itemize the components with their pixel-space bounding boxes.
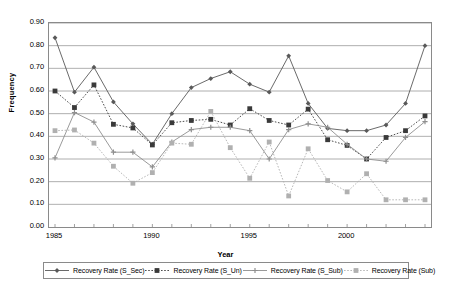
data-point bbox=[155, 268, 160, 273]
data-point bbox=[130, 181, 135, 186]
data-point bbox=[72, 110, 77, 115]
data-point bbox=[267, 90, 272, 95]
data-point bbox=[286, 194, 291, 199]
data-point bbox=[130, 126, 135, 131]
data-point bbox=[267, 118, 272, 123]
data-point bbox=[306, 121, 311, 126]
series-2 bbox=[52, 110, 427, 170]
series-3 bbox=[53, 109, 428, 202]
data-point bbox=[286, 53, 291, 58]
data-point bbox=[72, 105, 77, 110]
legend-marker-icon bbox=[343, 266, 369, 275]
y-tick-label: 0.90 bbox=[10, 18, 44, 26]
data-point bbox=[423, 43, 428, 48]
x-tick-label: 1990 bbox=[131, 232, 171, 240]
plot-area bbox=[48, 22, 432, 228]
data-point bbox=[53, 35, 58, 40]
legend-item-3[interactable]: Recovery Rate (Sub) bbox=[343, 266, 435, 275]
data-point bbox=[267, 140, 272, 145]
data-point bbox=[247, 82, 252, 87]
data-point bbox=[403, 197, 408, 202]
legend-item-1[interactable]: Recovery Rate (S_Un) bbox=[144, 266, 241, 275]
data-point bbox=[150, 143, 155, 148]
data-point bbox=[208, 76, 213, 81]
data-point bbox=[111, 164, 116, 169]
data-point bbox=[189, 118, 194, 123]
data-point bbox=[353, 268, 358, 273]
legend-marker-icon bbox=[144, 266, 170, 275]
data-point bbox=[325, 137, 330, 142]
x-tick-label: 2000 bbox=[326, 232, 366, 240]
y-tick-label: 0.30 bbox=[10, 154, 44, 162]
x-axis-title: Year bbox=[0, 250, 451, 259]
y-tick-label: 0.80 bbox=[10, 41, 44, 49]
data-point bbox=[252, 268, 257, 273]
chart-container: Frequency 0.900.800.700.600.500.400.300.… bbox=[0, 0, 451, 288]
legend-marker-icon bbox=[44, 266, 70, 275]
y-tick-label: 0.70 bbox=[10, 63, 44, 71]
data-point bbox=[364, 171, 369, 176]
data-point bbox=[267, 156, 272, 161]
data-point bbox=[189, 127, 194, 132]
series-line bbox=[55, 111, 425, 199]
y-tick-label: 0.10 bbox=[10, 199, 44, 207]
data-point bbox=[345, 128, 350, 133]
legend-label: Recovery Rate (S_Sec) bbox=[73, 267, 144, 274]
legend-item-0[interactable]: Recovery Rate (S_Sec) bbox=[44, 266, 144, 275]
legend-marker-icon bbox=[242, 266, 268, 275]
chart-plot-svg bbox=[49, 23, 431, 227]
data-point bbox=[306, 107, 311, 112]
data-point bbox=[345, 189, 350, 194]
data-point bbox=[208, 109, 213, 114]
data-point bbox=[52, 155, 57, 160]
chart-legend: Recovery Rate (S_Sec)Recovery Rate (S_Un… bbox=[43, 262, 409, 279]
x-tick-label: 1995 bbox=[229, 232, 269, 240]
data-point bbox=[423, 114, 428, 119]
data-point bbox=[92, 82, 97, 87]
data-point bbox=[111, 150, 116, 155]
y-tick-label: 0.20 bbox=[10, 177, 44, 185]
data-point bbox=[55, 268, 60, 273]
data-point bbox=[384, 135, 389, 140]
data-point bbox=[403, 128, 408, 133]
legend-label: Recovery Rate (Sub) bbox=[372, 267, 435, 274]
data-point bbox=[91, 119, 96, 124]
legend-label: Recovery Rate (S_Sub) bbox=[271, 267, 343, 274]
data-point bbox=[208, 125, 213, 130]
data-point bbox=[53, 128, 58, 133]
data-point bbox=[423, 197, 428, 202]
data-point bbox=[189, 142, 194, 147]
legend-item-2[interactable]: Recovery Rate (S_Sub) bbox=[242, 266, 343, 275]
y-tick-label: 0.00 bbox=[10, 222, 44, 230]
data-point bbox=[247, 106, 252, 111]
data-point bbox=[286, 127, 291, 132]
y-tick-label: 0.60 bbox=[10, 86, 44, 94]
data-point bbox=[286, 123, 291, 128]
data-point bbox=[169, 120, 174, 125]
data-point bbox=[150, 170, 155, 175]
data-point bbox=[325, 178, 330, 183]
data-point bbox=[228, 69, 233, 74]
legend-label: Recovery Rate (S_Un) bbox=[173, 267, 241, 274]
data-point bbox=[92, 141, 97, 146]
y-tick-label: 0.40 bbox=[10, 131, 44, 139]
data-point bbox=[306, 146, 311, 151]
x-tick-label: 1985 bbox=[34, 232, 74, 240]
data-point bbox=[364, 128, 369, 133]
data-point bbox=[247, 128, 252, 133]
data-point bbox=[228, 145, 233, 150]
data-point bbox=[247, 176, 252, 181]
data-point bbox=[111, 122, 116, 127]
data-point bbox=[53, 89, 58, 94]
data-point bbox=[384, 197, 389, 202]
data-point bbox=[169, 141, 174, 146]
data-point bbox=[72, 128, 77, 133]
y-tick-label: 0.50 bbox=[10, 109, 44, 117]
data-point bbox=[208, 117, 213, 122]
